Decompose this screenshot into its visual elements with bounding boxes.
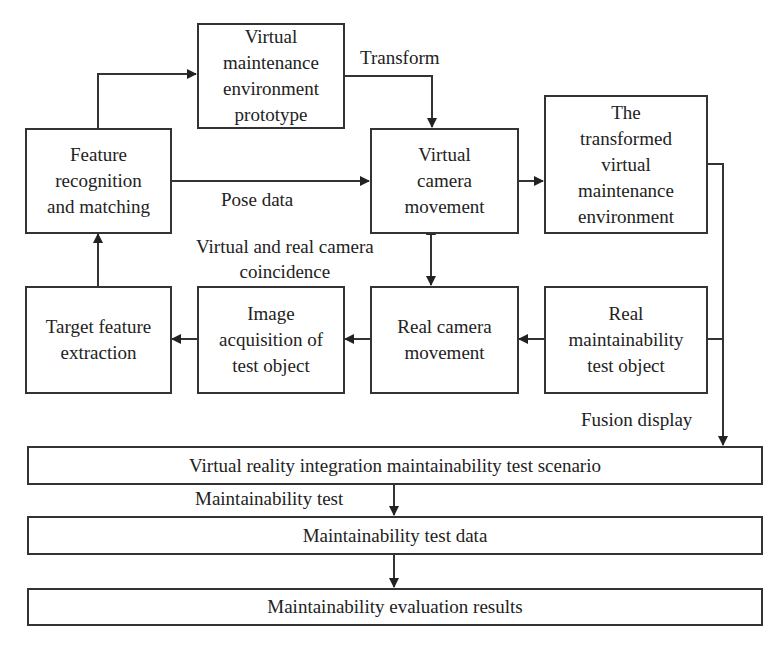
node-transformed-virtual-environment: The transformed virtual maintenance envi… — [544, 95, 708, 234]
edge-label-camera-coincidence: Virtual and real camera coincidence — [196, 234, 374, 284]
node-vr-integration-scenario: Virtual reality integration maintainabil… — [27, 446, 763, 485]
node-real-maintainability-test-object: Real maintainability test object — [544, 286, 708, 394]
node-label: Feature recognition and matching — [47, 142, 150, 220]
arrow-prototype-to-virtual-camera — [344, 76, 432, 127]
node-label: Image acquisition of test object — [219, 301, 323, 379]
arrow-transformed-to-fusion — [707, 164, 723, 445]
node-label: Real maintainability test object — [568, 301, 683, 379]
node-maintainability-evaluation-results: Maintainability evaluation results — [27, 588, 763, 626]
node-label: Virtual maintenance environment prototyp… — [223, 24, 319, 128]
node-label: Virtual reality integration maintainabil… — [189, 453, 601, 479]
node-label: Real camera movement — [397, 314, 491, 366]
node-label: Target feature extraction — [46, 314, 151, 366]
node-maintainability-test-data: Maintainability test data — [27, 516, 763, 555]
node-real-camera-movement: Real camera movement — [370, 286, 519, 394]
node-virtual-camera-movement: Virtual camera movement — [370, 128, 519, 234]
edge-label-maintainability-test: Maintainability test — [195, 487, 343, 511]
node-label: Maintainability test data — [303, 523, 488, 549]
edge-label-fusion-display: Fusion display — [581, 408, 692, 432]
edge-label-transform: Transform — [360, 46, 440, 70]
node-image-acquisition: Image acquisition of test object — [197, 286, 345, 394]
node-label: Maintainability evaluation results — [267, 594, 522, 620]
node-label: The transformed virtual maintenance envi… — [578, 100, 674, 230]
node-label: Virtual camera movement — [404, 142, 484, 220]
node-virtual-maintenance-prototype: Virtual maintenance environment prototyp… — [197, 23, 345, 129]
node-feature-recognition-matching: Feature recognition and matching — [25, 128, 172, 234]
edge-label-pose-data: Pose data — [221, 188, 293, 212]
node-target-feature-extraction: Target feature extraction — [25, 286, 172, 394]
arrow-feature-to-prototype — [98, 74, 196, 128]
